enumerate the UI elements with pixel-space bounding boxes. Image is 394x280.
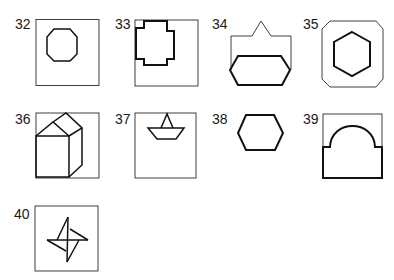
figure-35-hexagon-in-octagon (322, 21, 383, 87)
figures-canvas (0, 0, 394, 280)
figure-32-octagon-in-square (36, 20, 99, 86)
figure-36-house (36, 113, 99, 178)
figure-40-pinwheel (35, 206, 98, 271)
figure-34-hexagon-peak (230, 21, 291, 85)
figure-39-arch (323, 114, 382, 178)
figure-37-boat (135, 113, 196, 178)
figure-38-hexagon (238, 115, 283, 150)
figure-33-cross-in-square (135, 20, 198, 86)
